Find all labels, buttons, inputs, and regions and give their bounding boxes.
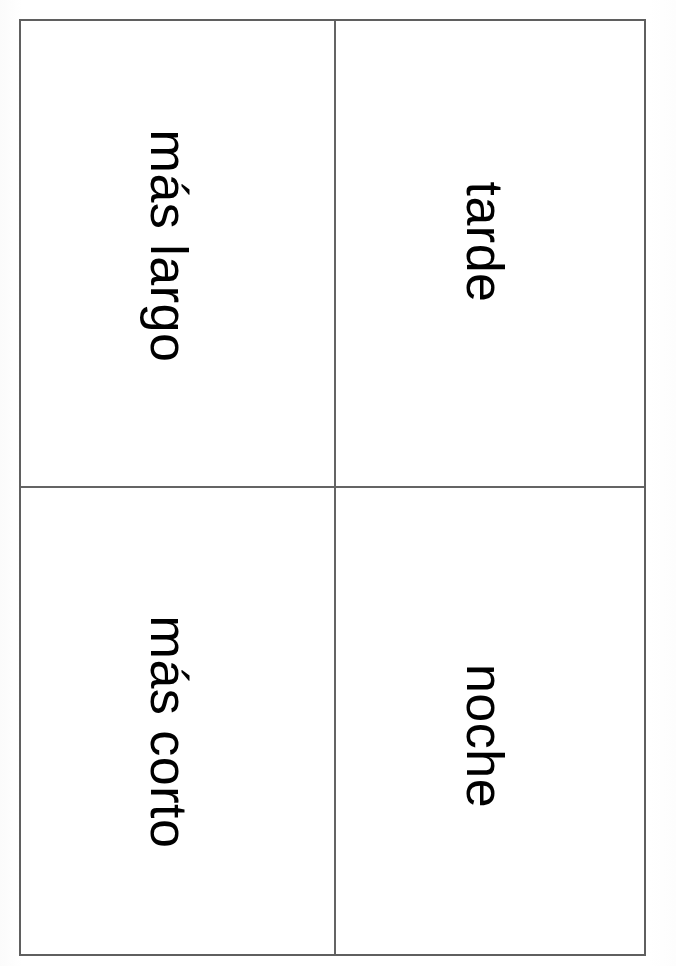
flashcard-page: más largo tarde más corto noche: [0, 0, 676, 966]
flashcard-term: tarde: [459, 181, 511, 302]
flashcard-cell-top-right[interactable]: tarde: [336, 21, 646, 486]
flashcard-term: más corto: [143, 616, 195, 849]
flashcard-cell-bottom-left[interactable]: más corto: [21, 488, 334, 956]
flashcard-grid: más largo tarde más corto noche: [19, 19, 646, 956]
flashcard-cell-top-left[interactable]: más largo: [21, 21, 334, 486]
flashcard-cell-bottom-right[interactable]: noche: [336, 488, 646, 956]
flashcard-term: más largo: [144, 129, 196, 362]
flashcard-term: noche: [459, 664, 511, 808]
